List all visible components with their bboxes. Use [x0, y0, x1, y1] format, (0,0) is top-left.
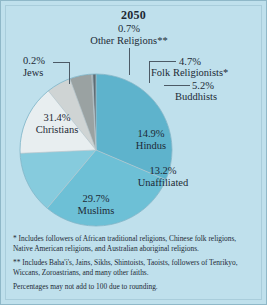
label-hindus: 14.9% Hindus	[123, 128, 179, 151]
footnote-double-star: ** Includes Baha'i's, Jains, Sikhs, Shin…	[13, 258, 256, 277]
label-folk-religionists-pct: 4.7%	[179, 56, 201, 68]
label-jews-name: Jews	[23, 67, 45, 79]
leader-jews-h	[53, 62, 69, 63]
label-hindus-pct: 14.9%	[123, 128, 179, 140]
label-muslims-pct: 29.7%	[65, 193, 127, 205]
label-hindus-name: Hindus	[123, 140, 179, 152]
label-buddhists-name: Buddhists	[175, 91, 217, 103]
label-muslims: 29.7% Muslims	[65, 193, 127, 216]
label-unaffiliated-name: Unaffiliated	[125, 177, 201, 189]
footnotes: * Includes followers of African traditio…	[13, 234, 256, 292]
label-buddhists: 5.2%	[192, 80, 214, 92]
footnote-rounding: Percentages may not add to 100 due to ro…	[13, 282, 256, 292]
label-christians: 31.4% Christians	[21, 112, 93, 135]
label-christians-name: Christians	[21, 124, 93, 136]
label-unaffiliated: 13.2% Unaffiliated	[125, 165, 201, 188]
label-folk-religionists-name-row: Folk Religionists*	[151, 67, 228, 79]
label-buddhists-pct: 5.2%	[192, 80, 214, 92]
label-other-religions-name: Other Religions**	[49, 35, 209, 47]
footnote-single-star: * Includes followers of African traditio…	[13, 234, 256, 253]
label-folk-religionists-name: Folk Religionists*	[151, 67, 228, 79]
leader-jews-v	[69, 62, 70, 84]
pie-chart-figure: 2050 0.7% Other Religions** 0.2% Jews 4.…	[0, 0, 267, 305]
label-jews: 0.2% Jews	[23, 55, 45, 78]
leader-folk-v	[149, 61, 150, 83]
leader-other-religions	[129, 48, 130, 75]
leader-buddhists	[164, 85, 190, 86]
label-buddhists-name-row: Buddhists	[175, 91, 217, 103]
chart-title: 2050	[1, 8, 266, 23]
label-christians-pct: 31.4%	[21, 112, 93, 124]
label-jews-pct: 0.2%	[23, 55, 45, 67]
label-unaffiliated-pct: 13.2%	[125, 165, 201, 177]
label-muslims-name: Muslims	[65, 205, 127, 217]
label-other-religions-pct: 0.7%	[49, 23, 209, 35]
leader-folk-h	[149, 61, 176, 62]
label-other-religions: 0.7% Other Religions**	[49, 23, 209, 46]
label-folk-religionists: 4.7%	[179, 56, 201, 68]
